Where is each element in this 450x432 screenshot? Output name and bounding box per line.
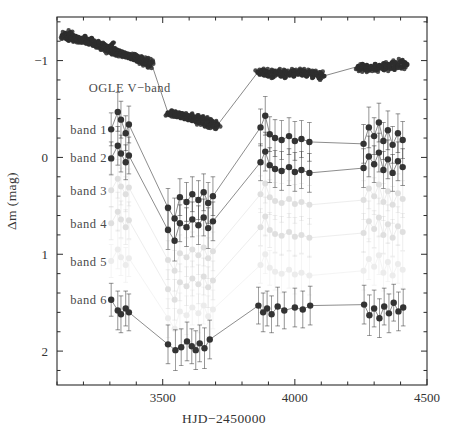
data-point <box>385 221 391 227</box>
data-point <box>298 199 304 205</box>
data-point <box>262 181 268 187</box>
data-point <box>395 158 401 164</box>
data-point <box>184 254 190 260</box>
data-point <box>104 51 108 55</box>
x-tick-label: 4000 <box>282 390 308 405</box>
data-point <box>380 232 386 238</box>
data-point <box>215 125 219 129</box>
data-point <box>201 274 207 280</box>
data-point <box>200 116 204 120</box>
series-band-6 <box>108 283 406 370</box>
data-point <box>376 214 382 220</box>
data-point <box>385 259 391 265</box>
data-point <box>258 224 264 230</box>
data-point <box>371 264 377 270</box>
series-line <box>111 179 403 271</box>
data-point <box>201 244 207 250</box>
data-point <box>390 202 396 208</box>
data-point <box>380 138 386 144</box>
data-point <box>123 159 129 165</box>
data-point <box>292 169 298 175</box>
data-point <box>189 191 195 197</box>
data-point <box>292 201 298 207</box>
data-point <box>268 311 274 317</box>
series-line <box>111 249 403 328</box>
data-point <box>108 187 114 193</box>
data-point <box>292 304 298 310</box>
data-point <box>366 153 372 159</box>
data-point <box>183 224 189 230</box>
data-point <box>60 37 64 41</box>
data-point <box>400 267 406 273</box>
data-point <box>207 336 213 342</box>
y-tick-label: −1 <box>34 53 48 68</box>
data-point <box>205 284 211 290</box>
data-point <box>269 76 273 80</box>
data-point <box>108 126 114 132</box>
data-point <box>385 127 391 133</box>
data-point <box>118 116 124 122</box>
data-point <box>267 194 273 200</box>
data-point <box>361 230 367 236</box>
data-point <box>193 347 199 353</box>
data-point <box>371 133 377 139</box>
data-point <box>205 255 211 261</box>
data-point <box>264 305 270 311</box>
data-point <box>184 338 190 344</box>
data-point <box>278 168 284 174</box>
data-point <box>199 123 203 127</box>
data-point <box>262 213 268 219</box>
data-point <box>380 199 386 205</box>
data-point <box>298 167 304 173</box>
data-point <box>165 286 171 292</box>
data-point <box>371 226 377 232</box>
data-point <box>115 209 121 215</box>
data-point <box>108 258 114 264</box>
x-tick-label: 4500 <box>414 390 440 405</box>
data-point <box>279 200 285 206</box>
data-point <box>126 217 132 223</box>
data-point <box>300 306 306 312</box>
data-point <box>274 303 280 309</box>
data-point <box>201 345 207 351</box>
data-point <box>361 301 367 307</box>
data-point <box>272 135 278 141</box>
data-point <box>272 269 278 275</box>
y-tick-label: 0 <box>42 150 49 165</box>
plot-annotation: band 6 <box>70 293 107 307</box>
data-point <box>195 281 201 287</box>
data-point <box>376 315 382 321</box>
data-point <box>395 130 401 136</box>
data-point <box>391 67 395 71</box>
data-point <box>197 340 203 346</box>
data-point <box>272 166 278 172</box>
data-point <box>184 283 190 289</box>
data-point <box>306 139 312 145</box>
scatter-plot: 350040004500−1012HJD−2450000Δm (mag) OGL… <box>0 0 450 432</box>
data-point <box>123 262 129 268</box>
data-point <box>126 121 132 127</box>
data-point <box>400 304 406 310</box>
data-point <box>118 311 124 317</box>
data-point <box>118 183 124 189</box>
series-band-2 <box>108 126 406 261</box>
y-tick-label: 1 <box>42 247 49 262</box>
data-point <box>361 268 367 274</box>
data-point <box>283 76 287 80</box>
data-point <box>267 265 273 271</box>
data-point <box>306 170 312 176</box>
plot-annotation: band 2 <box>70 151 107 165</box>
data-point <box>385 188 391 194</box>
data-point <box>292 234 298 240</box>
data-point <box>404 65 408 69</box>
plot-annotation: OGLE V−band <box>89 81 171 95</box>
data-point <box>255 302 261 308</box>
data-point <box>310 76 314 80</box>
data-point <box>172 268 178 274</box>
data-point <box>286 229 292 235</box>
data-point <box>118 150 124 156</box>
data-point <box>165 315 171 321</box>
data-point <box>172 347 178 353</box>
data-point <box>390 235 396 241</box>
data-point <box>386 310 392 316</box>
